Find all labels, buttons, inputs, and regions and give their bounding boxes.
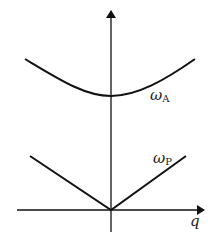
x-axis-label: q — [190, 212, 200, 230]
omega-a-label: ωA — [150, 86, 170, 104]
dispersion-diagram: ωA ωP q — [0, 0, 219, 249]
omega-a-curve — [25, 59, 195, 96]
omega-p-label: ωP — [153, 149, 172, 167]
